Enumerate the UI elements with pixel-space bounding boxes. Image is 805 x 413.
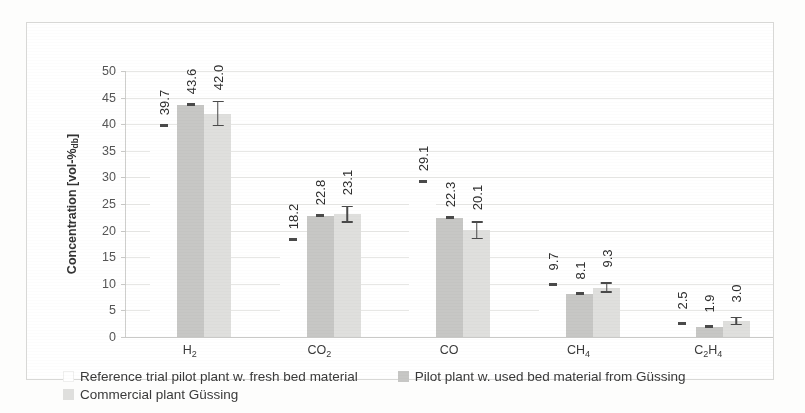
- bar[interactable]: [436, 218, 463, 337]
- y-tick-label: 30: [102, 170, 116, 184]
- bar-slot: 9.3: [593, 71, 620, 337]
- error-bar: [735, 317, 737, 326]
- bar-group: 18.222.823.1: [256, 71, 386, 337]
- bar-top-marker: [678, 322, 686, 325]
- bar-top-marker: [316, 214, 324, 217]
- bar-value-label: 9.7: [545, 241, 560, 283]
- legend-item-reference-trial[interactable]: Reference trial pilot plant w. fresh bed…: [63, 369, 358, 384]
- chart-legend: Reference trial pilot plant w. fresh bed…: [63, 369, 793, 405]
- bar-top-marker: [187, 103, 195, 106]
- legend-item-commercial-plant[interactable]: Commercial plant Güssing: [63, 387, 238, 402]
- bar[interactable]: [669, 324, 696, 337]
- y-tick-label: 40: [102, 117, 116, 131]
- y-tick-label: 20: [102, 224, 116, 238]
- bar-value-label: 43.6: [183, 61, 198, 103]
- bar[interactable]: [696, 327, 723, 337]
- legend-swatch-icon: [398, 371, 409, 382]
- bar-value-label: 9.3: [599, 238, 614, 280]
- bar-value-label: 18.2: [286, 196, 301, 238]
- y-tick-label: 10: [102, 277, 116, 291]
- bar[interactable]: [409, 182, 436, 337]
- legend-swatch-icon: [63, 389, 74, 400]
- y-tick-label: 15: [102, 250, 116, 264]
- bar-top-marker: [289, 238, 297, 241]
- bar[interactable]: [566, 294, 593, 337]
- legend-swatch-icon: [63, 371, 74, 382]
- x-axis-labels: H2CO2COCH4C2H4: [125, 343, 773, 363]
- bar-slot: 39.7: [150, 71, 177, 337]
- y-axis-title-text: Concentration [vol-%: [65, 148, 79, 274]
- bar-value-label: 1.9: [702, 282, 717, 324]
- bar[interactable]: [539, 285, 566, 337]
- bar[interactable]: [150, 126, 177, 337]
- bar-slot: 22.8: [307, 71, 334, 337]
- x-axis-label: H2: [183, 343, 197, 357]
- legend-label: Pilot plant w. used bed material from Gü…: [415, 369, 686, 384]
- y-axis-title-subscript: db: [70, 138, 80, 148]
- x-axis-label: C2H4: [694, 343, 722, 357]
- x-axis-label: CO2: [308, 343, 332, 357]
- bar-slot: 22.3: [436, 71, 463, 337]
- error-bar: [347, 206, 349, 223]
- bar-value-label: 3.0: [729, 272, 744, 314]
- bar-slot: 42.0: [204, 71, 231, 337]
- bar-slot: 2.5: [669, 71, 696, 337]
- bar[interactable]: [334, 214, 361, 337]
- bar-top-marker: [419, 180, 427, 183]
- y-tick-label: 45: [102, 91, 116, 105]
- bar-group: 29.122.320.1: [385, 71, 515, 337]
- chart-frame: Concentration [vol-%db] 39.743.642.018.2…: [26, 22, 774, 380]
- legend-row-1: Reference trial pilot plant w. fresh bed…: [63, 369, 793, 384]
- gridline: [126, 337, 773, 338]
- plot-wrap: 39.743.642.018.222.823.129.122.320.19.78…: [125, 71, 773, 337]
- bar-value-label: 39.7: [156, 81, 171, 123]
- bar-slot: 18.2: [280, 71, 307, 337]
- bar[interactable]: [723, 321, 750, 337]
- bar[interactable]: [280, 240, 307, 337]
- bar-value-label: 20.1: [469, 177, 484, 219]
- bar-slot: 43.6: [177, 71, 204, 337]
- bar[interactable]: [307, 216, 334, 337]
- bar[interactable]: [593, 288, 620, 337]
- y-tick-label: 35: [102, 144, 116, 158]
- bar-group: 9.78.19.3: [515, 71, 645, 337]
- legend-label: Reference trial pilot plant w. fresh bed…: [80, 369, 358, 384]
- y-tick-label: 50: [102, 64, 116, 78]
- bar-slot: 9.7: [539, 71, 566, 337]
- error-bar: [217, 101, 219, 127]
- bar-slot: 23.1: [334, 71, 361, 337]
- bar-top-marker: [549, 283, 557, 286]
- bar[interactable]: [177, 105, 204, 337]
- bar-value-label: 23.1: [340, 161, 355, 203]
- error-bar: [606, 282, 608, 293]
- bar-slot: 8.1: [566, 71, 593, 337]
- bar-slot: 20.1: [463, 71, 490, 337]
- y-tick-label: 5: [109, 303, 116, 317]
- bar-top-marker: [160, 124, 168, 127]
- plot-area: 39.743.642.018.222.823.129.122.320.19.78…: [125, 71, 773, 337]
- bar[interactable]: [204, 114, 231, 337]
- bar-group: 2.51.93.0: [644, 71, 774, 337]
- legend-row-2: Commercial plant Güssing: [63, 387, 793, 402]
- x-axis-label: CO: [440, 343, 459, 357]
- y-tick-mark: [121, 337, 126, 338]
- y-axis-title: Concentration [vol-%db]: [63, 71, 81, 337]
- bar-top-marker: [576, 292, 584, 295]
- bar-value-label: 2.5: [675, 279, 690, 321]
- bar[interactable]: [463, 230, 490, 337]
- bar-top-marker: [446, 216, 454, 219]
- legend-item-pilot-plant-used-bed[interactable]: Pilot plant w. used bed material from Gü…: [398, 369, 686, 384]
- bar-slot: 1.9: [696, 71, 723, 337]
- bar-value-label: 29.1: [415, 138, 430, 180]
- bar-value-label: 8.1: [572, 249, 587, 291]
- bar-slot: 29.1: [409, 71, 436, 337]
- error-bar: [476, 221, 478, 239]
- bar-top-marker: [705, 325, 713, 328]
- legend-label: Commercial plant Güssing: [80, 387, 238, 402]
- bar-group: 39.743.642.0: [126, 71, 256, 337]
- bar-value-label: 22.3: [442, 174, 457, 216]
- y-tick-label: 25: [102, 197, 116, 211]
- bar-value-label: 22.8: [313, 171, 328, 213]
- bar-value-label: 42.0: [210, 56, 225, 98]
- y-tick-label: 0: [109, 330, 116, 344]
